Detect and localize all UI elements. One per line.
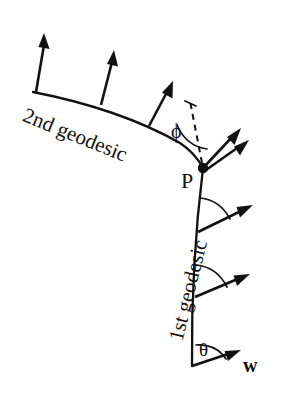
geodesic-parallel-transport-figure: 2nd geodesic 1st geodesic P ϕ θ w bbox=[0, 0, 281, 398]
vector-w-label: w bbox=[243, 355, 257, 375]
phi-angle-label: ϕ bbox=[171, 121, 182, 141]
transport-vector-1st-a bbox=[198, 198, 253, 232]
transport-vector-2nd-b bbox=[101, 50, 118, 105]
transport-vector-2nd-c bbox=[149, 81, 173, 126]
point-p-marker bbox=[198, 163, 208, 173]
transported-vector-at-p-lower bbox=[206, 140, 249, 170]
point-p-label: P bbox=[181, 170, 193, 192]
transport-vector-2nd-a bbox=[36, 33, 50, 92]
diagram-canvas bbox=[0, 0, 281, 398]
theta-angle-label: θ bbox=[199, 340, 208, 359]
